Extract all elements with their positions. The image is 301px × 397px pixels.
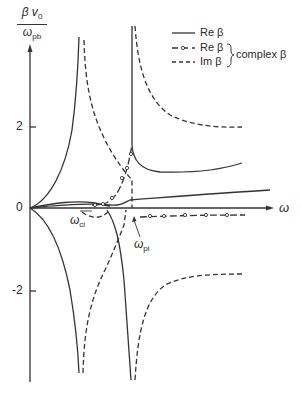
legend-brace bbox=[227, 44, 234, 67]
marker bbox=[110, 196, 113, 199]
im-beta-lower-left bbox=[83, 210, 126, 373]
im-beta-small-loop bbox=[82, 212, 108, 217]
im-beta-upper-right bbox=[135, 26, 242, 127]
marker bbox=[148, 214, 151, 217]
re-beta-complex-right bbox=[140, 215, 245, 217]
marker bbox=[204, 213, 207, 216]
marker bbox=[225, 213, 228, 216]
marker bbox=[93, 203, 96, 206]
re-beta-upper-left bbox=[30, 37, 79, 208]
y-label-denominator-sub: pb bbox=[32, 33, 41, 42]
marker bbox=[120, 176, 123, 179]
y-tick-label-m2: -2 bbox=[12, 283, 23, 297]
re-beta-lower-drop bbox=[107, 210, 131, 380]
y-label-numerator: β v bbox=[22, 5, 38, 19]
y-axis-label: β v0 ωpb bbox=[17, 6, 47, 44]
legend-group-label: complex β bbox=[236, 48, 286, 60]
legend-label-re-beta-complex: Re β bbox=[200, 41, 223, 53]
re-beta-near-axis bbox=[30, 190, 270, 208]
omega-ci-label: ωci bbox=[70, 213, 85, 229]
legend-label-re-beta: Re β bbox=[200, 26, 223, 38]
y-tick-label-0: 0 bbox=[16, 200, 23, 214]
omega-pi-arrowhead bbox=[132, 216, 137, 222]
y-label-numerator-sub: 0 bbox=[38, 12, 42, 21]
y-label-denominator: ω bbox=[23, 25, 32, 39]
marker bbox=[125, 166, 128, 169]
omega-pi-label: ωpi bbox=[134, 237, 150, 253]
marker bbox=[183, 213, 186, 216]
legend-label-im-beta: Im β bbox=[200, 55, 222, 67]
y-tick-label-2: 2 bbox=[16, 119, 23, 133]
marker bbox=[101, 202, 104, 205]
im-beta-upper-left bbox=[84, 40, 132, 208]
y-axis-arrow bbox=[28, 44, 33, 52]
x-axis-label: ω bbox=[279, 200, 289, 215]
re-beta-lower-left bbox=[30, 208, 79, 373]
legend-dashcircle-marker bbox=[181, 46, 184, 49]
marker bbox=[129, 152, 132, 155]
x-axis-arrow bbox=[266, 206, 274, 211]
marker bbox=[162, 214, 165, 217]
im-beta-lower-right bbox=[135, 274, 245, 380]
omega-pi-pointer bbox=[134, 220, 140, 237]
